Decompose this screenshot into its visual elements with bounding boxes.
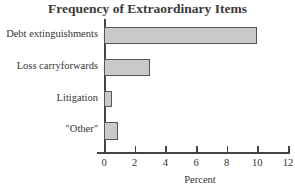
x-tick-label: 10 [247,157,267,168]
x-tick-mark [196,146,198,153]
x-tick-label: 12 [278,157,295,168]
x-tick-label: 6 [186,157,206,168]
bar [104,27,257,44]
x-tick-label: 0 [94,157,114,168]
bar [104,59,150,76]
category-label: "Other" [66,123,98,134]
x-tick-mark [135,146,137,153]
bar-chart: Debt extinguishments Loss carryforwards … [0,0,295,192]
x-tick-mark [288,146,290,153]
x-tick-label: 2 [125,157,145,168]
category-label: Litigation [57,92,98,103]
bar [104,122,118,140]
category-label: Debt extinguishments [6,28,98,39]
x-tick-mark [257,146,259,153]
bar [104,91,112,107]
category-label: Loss carryforwards [17,60,98,71]
x-tick-mark [165,146,167,153]
x-tick-mark [227,146,229,153]
x-tick-mark [104,146,106,153]
x-tick-label: 8 [217,157,237,168]
x-tick-label: 4 [155,157,175,168]
x-axis-label: Percent [170,174,230,185]
x-axis-line [97,152,290,154]
